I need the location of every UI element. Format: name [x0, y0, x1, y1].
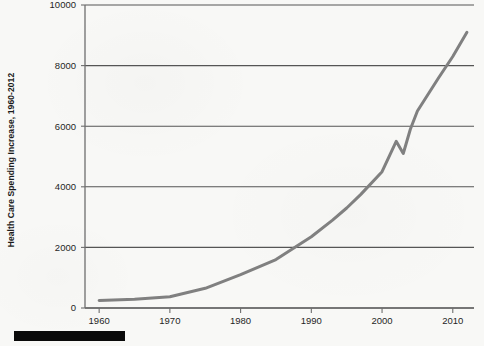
x-tick-label-1990: 1990	[301, 315, 322, 326]
x-tick-label-2010: 2010	[442, 315, 463, 326]
x-tick-label-2000: 2000	[371, 315, 392, 326]
y-tick-label-8000: 8000	[55, 60, 76, 71]
data-line-series-0	[99, 32, 467, 300]
redacted-caption-bar	[14, 331, 125, 341]
y-tick-label-0: 0	[71, 302, 76, 313]
chart-figure: Health Care Spending Increase, 1960-2012…	[0, 0, 484, 346]
y-tick-label-4000: 4000	[55, 181, 76, 192]
x-tick-label-1970: 1970	[159, 315, 180, 326]
y-tick-label-10000: 10000	[50, 0, 76, 10]
x-axis-tick-labels-group: 196019701980199020002010	[89, 308, 464, 326]
line-chart-plot: 1000080006000400020000 19601970198019902…	[0, 0, 484, 346]
y-axis-tick-labels-group: 1000080006000400020000	[50, 0, 85, 313]
gridlines-group	[85, 5, 474, 308]
x-tick-label-1960: 1960	[89, 315, 110, 326]
y-tick-label-2000: 2000	[55, 242, 76, 253]
y-tick-label-6000: 6000	[55, 121, 76, 132]
x-tick-label-1980: 1980	[230, 315, 251, 326]
data-series-group	[99, 32, 467, 300]
